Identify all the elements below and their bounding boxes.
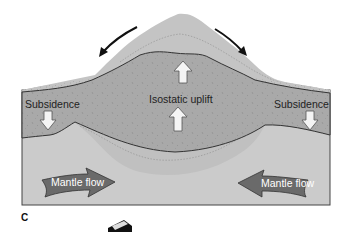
block-diagram-icon (108, 220, 132, 232)
panel-label: C (21, 212, 28, 223)
label-isostatic-uplift: Isostatic uplift (149, 93, 213, 105)
label-subsidence-right: Subsidence (274, 98, 329, 110)
label-mantle-flow-left: Mantle flow (51, 176, 105, 188)
label-mantle-flow-right: Mantle flow (261, 177, 315, 189)
label-subsidence-left: Subsidence (25, 98, 80, 110)
isostasy-diagram: Isostatic uplift Subsidence Subsidence M… (0, 0, 346, 232)
